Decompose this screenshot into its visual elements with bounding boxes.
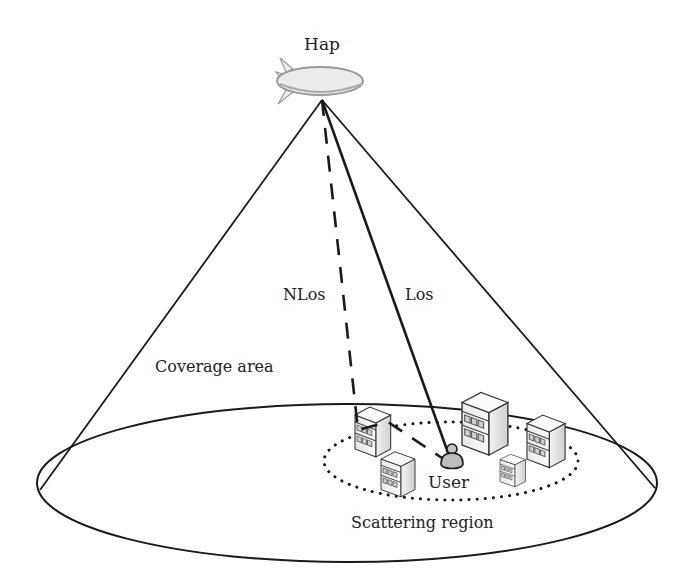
hap-coverage-diagram: Hap NLos Los Coverage area User Scatteri… <box>0 0 694 584</box>
building-icon <box>462 393 508 456</box>
los-label: Los <box>405 285 433 304</box>
building-icon <box>355 407 391 457</box>
building-icon <box>500 454 526 487</box>
nlos-label: NLos <box>283 285 325 304</box>
scattering-region-label: Scattering region <box>351 513 494 532</box>
building-icon <box>527 415 565 468</box>
user-label: User <box>428 472 470 492</box>
building-icon <box>381 452 415 497</box>
cone-left-edge <box>40 100 322 490</box>
hap-label: Hap <box>304 34 340 54</box>
coverage-area-label: Coverage area <box>155 357 274 376</box>
airship-icon <box>276 58 363 104</box>
user-icon <box>441 444 463 469</box>
